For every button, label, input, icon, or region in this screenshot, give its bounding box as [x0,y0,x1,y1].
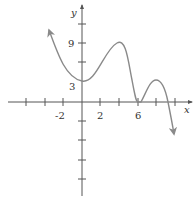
y-axis-label: y [70,7,77,18]
y-tick-label-9: 9 [68,38,74,49]
x-tick-label-neg2: -2 [55,110,65,121]
y-tick-label-3: 3 [69,81,75,92]
x-tick-label-6: 6 [135,110,141,121]
x-tick-label-2: 2 [97,110,103,121]
graph: y x 9 3 -2 2 6 [0,0,196,200]
x-axis-label: x [184,104,190,115]
